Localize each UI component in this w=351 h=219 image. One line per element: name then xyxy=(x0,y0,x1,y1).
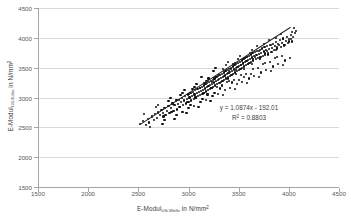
data-point xyxy=(266,50,268,52)
data-point xyxy=(173,118,175,120)
data-point xyxy=(227,61,229,63)
data-point xyxy=(178,106,180,108)
x-axis-tick-label: 3500 xyxy=(219,190,259,198)
data-point xyxy=(248,77,250,79)
data-point xyxy=(221,84,223,86)
x-axis-tick-label: 2000 xyxy=(68,190,108,198)
data-point xyxy=(209,100,211,102)
data-point xyxy=(243,76,245,78)
data-point xyxy=(231,81,233,83)
data-point xyxy=(181,92,183,94)
r-squared-value: = 0.8803 xyxy=(241,114,266,121)
data-point xyxy=(194,96,196,98)
data-point xyxy=(202,92,204,94)
data-point xyxy=(145,124,147,126)
data-point xyxy=(283,44,285,46)
data-point xyxy=(193,105,195,107)
data-point xyxy=(238,79,240,81)
data-point xyxy=(280,46,282,48)
data-point xyxy=(222,94,224,96)
data-point xyxy=(290,38,292,40)
data-point xyxy=(260,71,262,73)
data-point xyxy=(257,67,259,69)
y-axis-tick xyxy=(34,157,38,158)
data-point xyxy=(162,115,164,117)
data-point xyxy=(169,97,171,99)
data-point xyxy=(278,44,280,46)
x-axis-tick-label: 4000 xyxy=(269,190,309,198)
data-point xyxy=(272,65,274,67)
y-axis-title-main: E-Modul xyxy=(7,107,14,132)
y-axis-tick-label: 4000 xyxy=(0,34,32,41)
x-axis-title-unit: in N/mm xyxy=(182,205,207,212)
gridline xyxy=(39,68,339,69)
data-point xyxy=(183,99,185,101)
data-point xyxy=(167,100,169,102)
gridline xyxy=(39,127,339,128)
x-axis-title-subscript: US-Welle xyxy=(161,208,179,213)
data-point xyxy=(288,40,290,42)
data-point xyxy=(210,87,212,89)
data-point xyxy=(227,77,229,79)
data-point xyxy=(206,93,208,95)
data-point xyxy=(172,110,174,112)
data-point xyxy=(200,76,202,78)
data-point xyxy=(161,123,163,125)
y-axis-title-unit: in N/mm xyxy=(7,63,14,88)
x-axis-title-exponent: 2 xyxy=(206,205,209,210)
data-point xyxy=(181,111,183,113)
data-point xyxy=(188,96,190,98)
data-point xyxy=(234,88,236,90)
data-point xyxy=(230,68,232,70)
data-point xyxy=(176,108,178,110)
data-point xyxy=(242,62,244,64)
x-axis-title-main: E-Modul xyxy=(137,205,162,212)
y-axis-title: E-ModulUS-Echo in N/mm2 xyxy=(7,31,15,161)
x-axis-tick-label: 1500 xyxy=(18,190,58,198)
data-point xyxy=(275,49,277,51)
data-point xyxy=(284,59,286,61)
data-point xyxy=(281,55,283,57)
equation-text: y = 1.0874x - 192.01 xyxy=(205,103,293,112)
y-axis-title-subscript: US-Echo xyxy=(10,90,15,108)
y-axis-tick-label: 2500 xyxy=(0,124,32,131)
trendline-equation-annotation: y = 1.0874x - 192.01 R2 = 0.8803 xyxy=(205,103,293,122)
y-axis-tick xyxy=(34,127,38,128)
y-axis-tick-label: 3000 xyxy=(0,94,32,101)
data-point xyxy=(239,55,241,57)
y-axis-tick xyxy=(34,98,38,99)
gridline xyxy=(39,8,339,9)
data-point xyxy=(251,63,253,65)
x-axis-tick-label: 4500 xyxy=(319,190,351,198)
data-point xyxy=(212,70,214,72)
data-point xyxy=(185,112,187,114)
gridline xyxy=(39,157,339,158)
y-axis-title-exponent: 2 xyxy=(7,60,12,63)
data-point xyxy=(219,87,221,89)
data-point xyxy=(214,67,216,69)
data-point xyxy=(201,98,203,100)
y-axis-tick xyxy=(34,8,38,9)
data-point xyxy=(193,93,195,95)
data-point xyxy=(267,53,269,55)
x-axis-tick-label: 3000 xyxy=(169,190,209,198)
data-point xyxy=(250,73,252,75)
y-axis-tick xyxy=(34,38,38,39)
gridline xyxy=(39,38,339,39)
data-point xyxy=(163,119,165,121)
data-point xyxy=(245,73,247,75)
data-point xyxy=(213,92,215,94)
data-point xyxy=(233,79,235,81)
y-axis-tick-label: 2000 xyxy=(0,154,32,161)
data-point xyxy=(235,73,237,75)
r-squared-exponent: 2 xyxy=(237,114,240,119)
data-point xyxy=(254,56,256,58)
data-point xyxy=(291,40,293,42)
y-axis-tick xyxy=(34,68,38,69)
y-axis-tick-label: 3500 xyxy=(0,64,32,71)
y-axis-tick-label: 4500 xyxy=(0,5,32,12)
data-point xyxy=(189,104,191,106)
x-axis-title: E-ModulUS-Welle in N/mm2 xyxy=(0,205,346,213)
data-point xyxy=(197,106,199,108)
